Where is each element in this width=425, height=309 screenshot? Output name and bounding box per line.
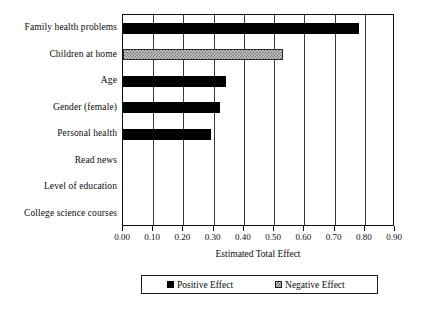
x-axis-tickmark [394, 226, 395, 231]
x-axis-tick-label: 0.70 [326, 232, 342, 242]
x-axis-tick-label: 0.40 [235, 232, 251, 242]
bar-row [123, 174, 393, 201]
x-axis-tickmark [364, 226, 365, 231]
bar-row [123, 201, 393, 228]
bar-chart-figure: Family health problemsChildren at homeAg… [0, 0, 425, 309]
y-axis-label: Personal health [57, 120, 117, 147]
bar-positive [123, 102, 220, 113]
y-axis-labels: Family health problemsChildren at homeAg… [0, 14, 117, 226]
x-axis-tick-label: 0.10 [144, 232, 160, 242]
legend-item-negative: Negative Effect [275, 280, 345, 290]
x-axis-tick-label: 0.20 [175, 232, 191, 242]
x-axis-tickmark [152, 226, 153, 231]
y-axis-label: Children at home [49, 41, 117, 68]
bar-row [123, 68, 393, 95]
y-axis-label: Age [101, 67, 117, 94]
x-axis-tick-label: 0.80 [356, 232, 372, 242]
legend-swatch-negative-icon [275, 281, 282, 288]
legend-label-negative: Negative Effect [285, 280, 345, 290]
y-axis-label: Level of education [44, 173, 117, 200]
y-axis-label: College science courses [24, 200, 117, 227]
x-axis-title: Estimated Total Effect [122, 249, 394, 259]
legend-label-positive: Positive Effect [177, 280, 233, 290]
legend-item-positive: Positive Effect [167, 280, 233, 290]
legend-swatch-positive-icon [167, 281, 174, 288]
x-axis-tickmark [334, 226, 335, 231]
plot-area [122, 14, 394, 226]
x-axis-tickmark [213, 226, 214, 231]
bar-positive [123, 129, 211, 140]
y-axis-label: Family health problems [25, 14, 117, 41]
x-axis-tick-label: 0.90 [386, 232, 402, 242]
bar-row [123, 15, 393, 42]
bar-rows [123, 15, 393, 225]
bar-row [123, 148, 393, 175]
x-axis-tickmark [122, 226, 123, 231]
bar-negative [123, 49, 283, 60]
bar-row [123, 121, 393, 148]
x-axis-tick-label: 0.50 [265, 232, 281, 242]
bar-row [123, 95, 393, 122]
y-axis-label: Read news [75, 147, 117, 174]
x-axis-tickmark [182, 226, 183, 231]
x-axis-tick-label: 0.00 [114, 232, 130, 242]
x-axis-tick-label: 0.60 [295, 232, 311, 242]
x-axis-tick-label: 0.30 [205, 232, 221, 242]
x-axis-tickmark [303, 226, 304, 231]
chart-legend: Positive Effect Negative Effect [141, 275, 378, 294]
y-axis-label: Gender (female) [53, 94, 117, 121]
bar-positive [123, 23, 359, 34]
x-axis-tickmark [273, 226, 274, 231]
x-axis-tick-labels: 0.000.100.200.300.400.500.600.700.800.90 [0, 232, 425, 246]
bar-row [123, 42, 393, 69]
bar-positive [123, 76, 226, 87]
x-axis-tickmark [243, 226, 244, 231]
